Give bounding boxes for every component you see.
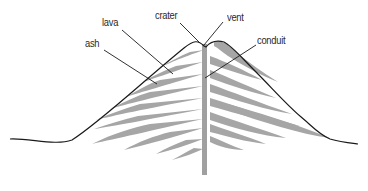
label-vent: vent: [227, 12, 244, 23]
leader-lava: [122, 30, 173, 74]
volcano-cross-section: [0, 0, 368, 191]
leader-crater: [180, 23, 200, 43]
label-crater: crater: [155, 10, 177, 21]
label-lava: lava: [102, 17, 118, 28]
label-conduit: conduit: [257, 35, 285, 46]
conduit: [202, 44, 207, 175]
leader-ash: [104, 50, 157, 84]
layer-stripes-right: [210, 41, 330, 150]
volcano-diagram: crater vent lava ash conduit: [0, 0, 368, 191]
layer-stripes-left: [92, 50, 204, 160]
label-ash: ash: [85, 38, 99, 49]
